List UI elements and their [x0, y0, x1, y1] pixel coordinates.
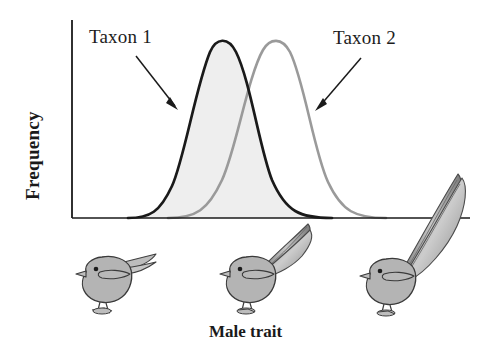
taxon2-label: Taxon 2 [333, 27, 396, 49]
bird-long-tail [360, 174, 465, 316]
y-axis-label: Frequency [22, 111, 44, 200]
bird-short-tail [76, 254, 156, 314]
arrow-to-taxon2-curve [315, 58, 361, 111]
x-axis-label: Male trait [0, 322, 491, 342]
plot-area [0, 0, 491, 353]
taxon1-fill-area [128, 41, 332, 218]
taxon1-label: Taxon 1 [89, 26, 152, 48]
sexual-selection-figure: Taxon 1 Taxon 2 Frequency Male trait [0, 0, 491, 353]
bird-medium-tail [220, 224, 312, 314]
arrow-to-taxon1-curve [136, 56, 178, 110]
